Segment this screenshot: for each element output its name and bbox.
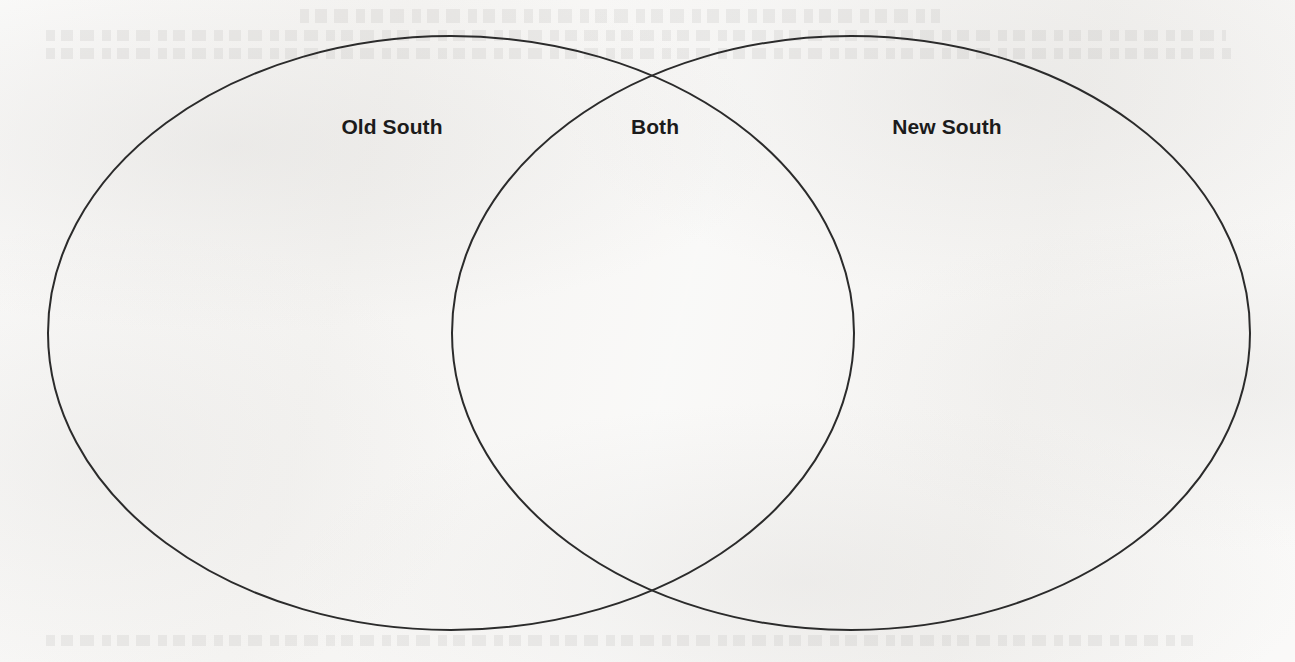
intersection-region-label: Both: [631, 115, 679, 139]
venn-right-circle: [452, 36, 1250, 630]
left-region-label: Old South: [341, 115, 442, 139]
worksheet-page: Old South Both New South: [0, 0, 1295, 662]
venn-diagram: [0, 0, 1295, 662]
right-region-label: New South: [892, 115, 1001, 139]
